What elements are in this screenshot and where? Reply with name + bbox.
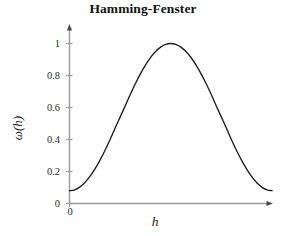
x-axis-arrow-icon	[267, 201, 274, 206]
y-tick-label-0: 0	[34, 198, 60, 209]
y-tick-label-0.4: 0.4	[28, 134, 60, 145]
y-tick-label-0.8: 0.8	[28, 70, 60, 81]
x-axis-label: h	[0, 214, 286, 230]
x-axis	[70, 201, 274, 206]
hamming-window-curve	[70, 44, 273, 191]
chart-figure: Hamming-Fenster	[0, 0, 286, 236]
y-axis	[67, 24, 72, 204]
y-tick-label-1: 1	[34, 38, 60, 49]
x-axis-label-text: h	[152, 214, 159, 230]
y-tick-label-0.6: 0.6	[28, 102, 60, 113]
y-tick-label-0.2: 0.2	[28, 166, 60, 177]
y-axis-label: ω(h)	[10, 98, 26, 158]
y-axis-arrow-icon	[67, 24, 72, 31]
